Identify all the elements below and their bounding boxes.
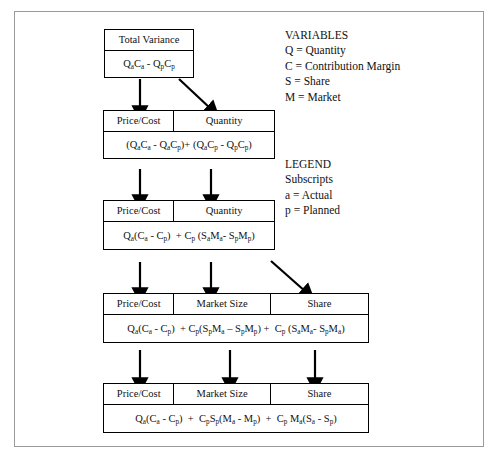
header-market-size: Market Size xyxy=(173,294,269,314)
box-total-variance: Total Variance QaCa - QpCp xyxy=(104,29,194,78)
box-level-2: Price/Cost Quantity (QaCa - QaCp)+ (QaCp… xyxy=(103,110,275,159)
header-share: Share xyxy=(270,384,368,404)
header-total-variance: Total Variance xyxy=(105,30,193,50)
legend-heading: LEGEND xyxy=(285,157,340,172)
legend-item-a: a = Actual xyxy=(285,188,340,203)
header-price-cost: Price/Cost xyxy=(104,294,173,314)
diagram-frame: Total Variance QaCa - QpCp Price/Cost Qu… xyxy=(14,11,484,447)
box-level-2-header: Price/Cost Quantity xyxy=(104,111,274,132)
header-quantity: Quantity xyxy=(173,201,274,221)
header-price-cost: Price/Cost xyxy=(104,201,173,221)
variables-block: VARIABLES Q = Quantity C = Contribution … xyxy=(285,28,400,105)
variables-item-c: C = Contribution Margin xyxy=(285,59,400,74)
variables-item-m: M = Market xyxy=(285,90,400,105)
box-level-5-header: Price/Cost Market Size Share xyxy=(104,384,368,405)
formula-level-5: Qa(Ca - Cp) + CpSp(Ma - Mp) + Cp Ma(Sa -… xyxy=(104,405,368,433)
box-level-4-header: Price/Cost Market Size Share xyxy=(104,294,368,315)
box-total-variance-header: Total Variance xyxy=(105,30,193,51)
arrow-l3-to-share xyxy=(271,261,306,292)
legend-item-p: p = Planned xyxy=(285,203,340,218)
box-level-3: Price/Cost Quantity Qa(Ca - Cp) + Cp (Sa… xyxy=(103,200,275,250)
legend-block: LEGEND Subscripts a = Actual p = Planned xyxy=(285,157,340,219)
header-market-size: Market Size xyxy=(173,384,269,404)
box-level-4: Price/Cost Market Size Share Qa(Ca - Cp)… xyxy=(103,293,369,343)
formula-total-variance: QaCa - QpCp xyxy=(105,51,193,77)
formula-level-2: (QaCa - QaCp)+ (QaCp - QpCp) xyxy=(104,132,274,158)
box-level-3-header: Price/Cost Quantity xyxy=(104,201,274,222)
header-share: Share xyxy=(270,294,368,314)
header-quantity: Quantity xyxy=(173,111,274,131)
formula-level-3: Qa(Ca - Cp) + Cp (SaMa- SpMp) xyxy=(104,222,274,250)
variables-heading: VARIABLES xyxy=(285,28,400,43)
legend-subheading: Subscripts xyxy=(285,172,340,187)
arrow-tv-to-quantity xyxy=(179,79,211,109)
variables-item-s: S = Share xyxy=(285,74,400,89)
box-level-5: Price/Cost Market Size Share Qa(Ca - Cp)… xyxy=(103,383,369,433)
variables-item-q: Q = Quantity xyxy=(285,43,400,58)
header-price-cost: Price/Cost xyxy=(104,384,173,404)
formula-level-4: Qa(Ca - Cp) + Cp(SpMa – SpMp) + Cp (SaMa… xyxy=(104,315,368,343)
header-price-cost: Price/Cost xyxy=(104,111,173,131)
